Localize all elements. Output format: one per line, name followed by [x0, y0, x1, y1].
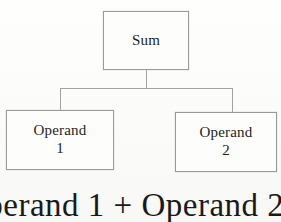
node-operand-1-index: 1 [56, 140, 64, 158]
node-operand-2[interactable]: Operand 2 [175, 112, 277, 172]
node-operand-1[interactable]: Operand 1 [6, 110, 114, 170]
node-sum-label: Sum [132, 32, 160, 50]
node-operand-1-label: Operand [33, 122, 86, 140]
node-operand-2-label: Operand [199, 124, 252, 142]
connector-to-operand-1 [60, 88, 61, 111]
diagram-canvas: Sum Operand 1 Operand 2 Operand 1 + Oper… [0, 0, 281, 222]
connector-to-operand-2 [232, 88, 233, 113]
caption-text: Operand 1 + Operand 2 [0, 193, 281, 222]
node-operand-2-index: 2 [222, 142, 230, 160]
caption-clipped-region: Operand 1 + Operand 2 [0, 193, 281, 222]
connector-crossbar [60, 88, 233, 89]
connector-sum-stem [146, 70, 147, 89]
node-sum[interactable]: Sum [103, 11, 189, 70]
